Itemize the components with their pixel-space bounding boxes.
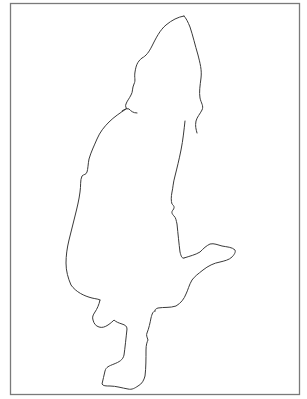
head-left-contour <box>126 16 184 109</box>
neck-tick <box>122 109 137 113</box>
drawing-frame <box>11 4 300 395</box>
silhouette-drawing <box>0 0 307 399</box>
raised-leg-contour <box>155 244 235 311</box>
drawing-canvas: Hand-drawn silhouette outline figure ins… <box>0 0 307 399</box>
back-contour <box>66 109 126 300</box>
hind-leg-contour <box>93 300 155 389</box>
front-inner-contour <box>171 121 185 258</box>
head-right-contour <box>184 16 203 133</box>
